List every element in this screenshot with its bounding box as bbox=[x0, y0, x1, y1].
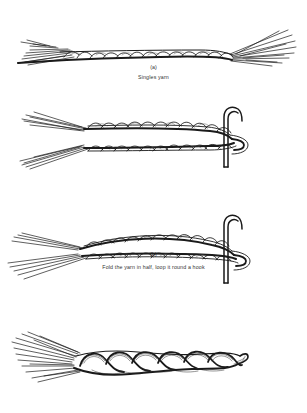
panel-a-label: (a) bbox=[0, 64, 307, 70]
panel-d: (d) Resulting thread is two ply. Notice … bbox=[0, 320, 307, 413]
two-ply-thread-drawing bbox=[0, 320, 307, 413]
yarn-folded-on-hook-drawing bbox=[0, 95, 307, 205]
yarn-plying-figure: (a) Singles yarn bbox=[0, 0, 307, 413]
panel-c: (c) Hold the two ends together Free the … bbox=[0, 205, 307, 320]
panel-a: (a) Singles yarn bbox=[0, 0, 307, 95]
panel-a-caption: Singles yarn bbox=[0, 74, 307, 81]
panel-b: (b) Fold the yarn in half, loop it round… bbox=[0, 95, 307, 205]
yarn-loop-released-drawing bbox=[0, 205, 307, 320]
